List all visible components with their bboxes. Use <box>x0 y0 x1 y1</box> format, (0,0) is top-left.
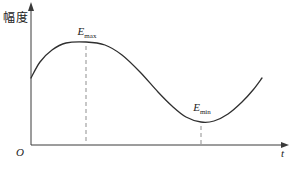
waveform-figure: 幅度 O t Emax Emin <box>0 0 297 173</box>
y-axis-label: 幅度 <box>3 8 29 25</box>
emax-base: E <box>78 25 85 37</box>
emin-subscript: min <box>200 108 211 116</box>
wave-curve <box>31 42 262 123</box>
emin-base: E <box>193 101 200 113</box>
emin-annotation: Emin <box>193 101 211 116</box>
emax-subscript: max <box>84 32 96 40</box>
emax-annotation: Emax <box>78 25 97 40</box>
plot-canvas <box>0 0 297 173</box>
origin-label: O <box>16 146 24 158</box>
extrema-dash-lines <box>86 46 201 144</box>
x-axis-label: t <box>281 147 284 159</box>
